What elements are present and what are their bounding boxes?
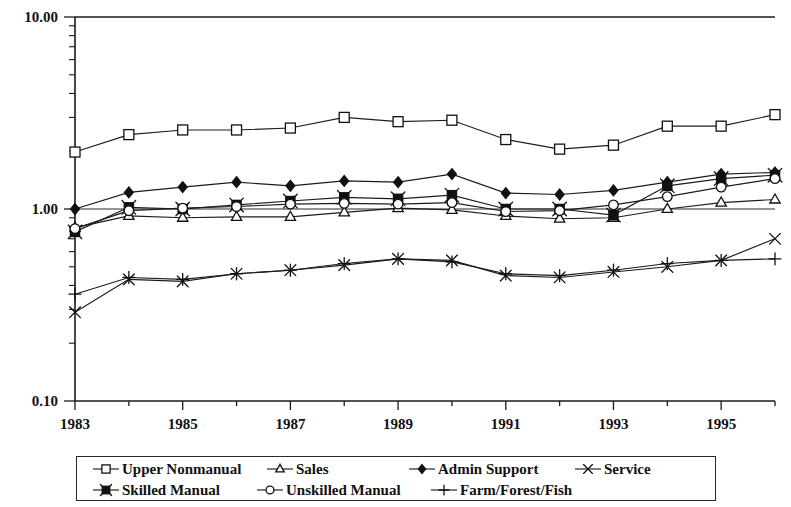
data-point-marker <box>178 182 187 193</box>
line-chart-plot: 10.001.000.10 19831985198719891991199319… <box>0 0 791 507</box>
chart-container: 10.001.000.10 19831985198719891991199319… <box>0 0 791 507</box>
data-point-marker <box>554 270 566 282</box>
data-point-marker <box>609 185 618 196</box>
legend-item-skilled-manual[interactable]: Skilled Manual <box>91 479 220 501</box>
x-axis-tick-labels: 1983198519871989199119931995 <box>60 416 736 432</box>
legend-marker-cross-x-icon <box>573 460 603 478</box>
data-point-marker <box>662 203 672 212</box>
data-point-marker <box>607 264 619 276</box>
data-point-marker <box>716 197 726 206</box>
data-point-marker <box>770 233 781 244</box>
data-point-marker <box>662 121 672 131</box>
data-point-marker <box>232 125 242 135</box>
legend-marker-solid-square-x-icon <box>91 481 121 499</box>
data-point-marker <box>501 188 510 199</box>
x-axis-tick-label: 1985 <box>168 416 198 432</box>
data-point-marker <box>501 135 511 145</box>
data-point-marker <box>69 288 81 300</box>
data-point-marker <box>393 199 403 209</box>
data-point-marker <box>178 125 188 135</box>
data-point-marker <box>70 224 80 234</box>
legend-label: Upper Nonmanual <box>122 460 241 478</box>
y-axis-tick-label: 0.10 <box>32 393 58 409</box>
series-farm-forest-fish <box>69 253 781 300</box>
legend-row: Skilled ManualUnskilled ManualFarm/Fores… <box>77 479 715 501</box>
x-axis-tick-label: 1983 <box>60 416 90 432</box>
y-axis-tick-label: 10.00 <box>24 9 58 25</box>
data-point-marker <box>102 465 110 473</box>
series-upper-nonmanual <box>70 110 780 157</box>
legend-item-service[interactable]: Service <box>573 458 651 480</box>
legend-row: Upper NonmanualSalesAdmin SupportService <box>77 458 715 480</box>
data-point-marker <box>177 273 189 285</box>
legend-grid: Upper NonmanualSalesAdmin SupportService… <box>77 457 715 500</box>
data-point-marker <box>770 110 780 120</box>
legend-label: Service <box>604 460 651 478</box>
data-point-marker <box>500 268 512 280</box>
data-point-marker <box>232 177 241 188</box>
data-point-marker <box>555 206 565 216</box>
data-point-marker <box>285 211 295 220</box>
data-point-marker <box>447 169 456 180</box>
chart-legend: Upper NonmanualSalesAdmin SupportService… <box>76 456 716 501</box>
data-point-marker <box>338 258 350 270</box>
x-axis-tick-label: 1995 <box>706 416 736 432</box>
data-point-marker <box>71 204 80 215</box>
data-point-marker <box>231 211 241 220</box>
data-point-marker <box>286 180 295 191</box>
data-point-marker <box>555 189 564 200</box>
legend-marker-plus-icon <box>429 481 459 499</box>
data-point-marker <box>285 123 295 133</box>
legend-label: Admin Support <box>438 460 538 478</box>
data-point-marker <box>609 200 619 210</box>
x-axis-tick-label: 1989 <box>383 416 413 432</box>
series-service <box>70 233 781 317</box>
data-point-marker <box>769 253 781 265</box>
data-point-marker <box>770 174 780 184</box>
data-point-marker <box>276 464 284 471</box>
data-point-marker <box>232 202 242 212</box>
legend-item-admin-support[interactable]: Admin Support <box>407 458 538 480</box>
data-point-marker <box>266 486 274 494</box>
data-point-marker <box>446 256 458 268</box>
data-point-marker <box>70 147 80 157</box>
y-axis-tick-labels: 10.001.000.10 <box>24 9 58 409</box>
data-point-marker <box>124 187 133 198</box>
legend-label: Farm/Forest/Fish <box>460 481 572 499</box>
axes <box>64 17 775 410</box>
data-point-marker <box>394 177 403 188</box>
data-point-marker <box>339 112 349 122</box>
legend-marker-solid-diamond-icon <box>407 460 437 478</box>
legend-item-farm-forest-fish[interactable]: Farm/Forest/Fish <box>429 479 572 501</box>
data-point-marker <box>393 117 403 127</box>
data-point-marker <box>124 130 134 140</box>
data-point-marker <box>770 194 780 203</box>
legend-item-sales[interactable]: Sales <box>265 458 329 480</box>
data-series-layer <box>68 110 782 318</box>
data-point-marker <box>286 199 296 209</box>
legend-item-unskilled-manual[interactable]: Unskilled Manual <box>255 479 401 501</box>
data-point-marker <box>100 484 111 495</box>
x-axis-tick-label: 1991 <box>491 416 521 432</box>
series-sales <box>70 194 780 231</box>
data-point-marker <box>439 485 449 495</box>
legend-label: Unskilled Manual <box>286 481 401 499</box>
data-point-marker <box>418 465 425 474</box>
x-axis-tick-label: 1987 <box>275 416 306 432</box>
y-axis-tick-label: 1.00 <box>32 201 58 217</box>
data-point-marker <box>716 182 726 192</box>
legend-marker-open-square-icon <box>91 460 121 478</box>
data-point-marker <box>661 179 675 193</box>
data-point-marker <box>447 115 457 125</box>
data-point-marker <box>555 144 565 154</box>
data-point-marker <box>501 207 511 217</box>
legend-marker-open-circle-icon <box>255 481 285 499</box>
data-point-marker <box>716 121 726 131</box>
data-point-marker <box>340 176 349 187</box>
data-point-marker <box>124 206 134 216</box>
data-point-marker <box>447 198 457 208</box>
legend-item-upper-nonmanual[interactable]: Upper Nonmanual <box>91 458 241 480</box>
legend-marker-open-triangle-icon <box>265 460 295 478</box>
legend-label: Skilled Manual <box>122 481 220 499</box>
data-point-marker <box>339 199 349 209</box>
